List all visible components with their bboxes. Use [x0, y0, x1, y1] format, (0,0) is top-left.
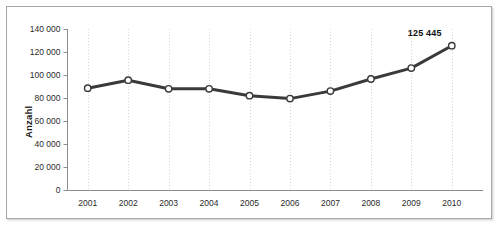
x-axis-tick-label: 2004: [189, 198, 229, 208]
y-axis-ticks: [64, 30, 68, 191]
x-axis-tick-label: 2003: [149, 198, 189, 208]
x-axis-tick-label: 2001: [68, 198, 108, 208]
y-axis-tick-label: 140 000: [30, 24, 61, 34]
data-point-marker: [165, 86, 171, 92]
x-axis-tick-label: 2010: [432, 198, 472, 208]
y-axis-title: Anzahl: [23, 106, 34, 138]
y-axis-tick-label: 100 000: [30, 70, 61, 80]
data-point-marker: [327, 88, 333, 94]
x-axis-tick-label: 2008: [351, 198, 391, 208]
data-line-series: [88, 46, 452, 99]
data-value-label: 125 445: [408, 28, 442, 38]
data-point-marker: [368, 76, 374, 82]
x-axis-tick-label: 2006: [270, 198, 310, 208]
data-point-marker: [206, 86, 212, 92]
y-axis-tick-label: 80 000: [35, 93, 61, 103]
data-point-marker: [408, 65, 414, 71]
y-axis-tick-label: 20 000: [35, 162, 61, 172]
data-point-marker: [125, 77, 131, 83]
y-axis-tick-label: 0: [56, 185, 61, 195]
data-point-marker: [449, 43, 455, 49]
chart-figure: Anzahl 020 00040 00060 00080 000100 0001…: [0, 0, 502, 231]
x-axis-tick-label: 2007: [310, 198, 350, 208]
x-axis-tick-label: 2002: [108, 198, 148, 208]
chart-axes: [64, 29, 484, 191]
y-axis-tick-label: 60 000: [35, 116, 61, 126]
data-point-marker: [246, 93, 252, 99]
vertical-gridlines: [89, 29, 453, 190]
data-point-marker: [85, 85, 91, 91]
x-axis-tick-label: 2005: [230, 198, 270, 208]
x-axis-tick-label: 2009: [391, 198, 431, 208]
y-axis-tick-label: 120 000: [30, 47, 61, 57]
y-axis-tick-label: 40 000: [35, 139, 61, 149]
data-point-marker: [287, 95, 293, 101]
